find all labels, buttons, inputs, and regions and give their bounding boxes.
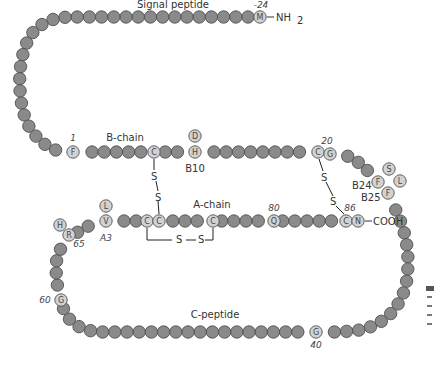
disulfide-s: S xyxy=(198,234,204,245)
amino-acid-bead xyxy=(244,146,256,158)
amino-acid-bead xyxy=(193,11,205,23)
amino-acid-bead xyxy=(402,251,414,263)
amino-acid-bead xyxy=(361,164,373,176)
amino-acid-bead xyxy=(398,227,410,239)
amino-acid-bead xyxy=(71,11,83,23)
svg-text:C: C xyxy=(156,217,162,226)
n-terminus-label: NH xyxy=(276,12,291,23)
amino-acid-bead xyxy=(353,324,365,336)
svg-text:G: G xyxy=(58,296,64,305)
c-peptide-label: C-peptide xyxy=(191,309,240,320)
amino-acid-bead xyxy=(82,220,94,232)
labeled-residue-g: G xyxy=(310,326,322,338)
amino-acid-bead xyxy=(96,326,108,338)
amino-acid-bead xyxy=(144,11,156,23)
svg-text:C: C xyxy=(144,217,150,226)
position-1: 1 xyxy=(70,133,76,143)
amino-acid-bead xyxy=(269,146,281,158)
svg-text:R: R xyxy=(66,231,72,240)
amino-acid-bead xyxy=(220,146,232,158)
amino-acid-beads xyxy=(13,11,414,338)
amino-acid-bead xyxy=(252,215,264,227)
labeled-residues: MFCHDCGFSLFCNQCCCVLHRGG xyxy=(54,11,406,338)
labeled-residue-s: S xyxy=(383,163,395,175)
site-a3: A3 xyxy=(99,233,112,243)
amino-acid-bead xyxy=(20,37,32,49)
amino-acid-bead xyxy=(217,11,229,23)
position-65: 65 xyxy=(73,239,85,249)
labeled-residue-c: C xyxy=(312,146,324,158)
amino-acid-bead xyxy=(108,11,120,23)
svg-text:Q: Q xyxy=(271,217,277,226)
amino-acid-bead xyxy=(121,326,133,338)
amino-acid-bead xyxy=(14,85,26,97)
labeled-residue-c: C xyxy=(207,215,219,227)
svg-text:S: S xyxy=(386,165,391,174)
labeled-residue-l: L xyxy=(394,175,406,187)
svg-text:C: C xyxy=(210,217,216,226)
labeled-residue-h: H xyxy=(54,219,66,231)
amino-acid-bead xyxy=(179,215,191,227)
amino-acid-bead xyxy=(194,326,206,338)
amino-acid-bead xyxy=(132,11,144,23)
labeled-residue-f: F xyxy=(67,146,79,158)
amino-acid-bead xyxy=(182,326,194,338)
amino-acid-bead xyxy=(255,326,267,338)
amino-acid-bead xyxy=(390,204,402,216)
svg-text:F: F xyxy=(376,178,381,187)
svg-text:L: L xyxy=(398,177,403,186)
labeled-residue-c: C xyxy=(153,215,165,227)
amino-acid-bead xyxy=(208,146,220,158)
amino-acid-bead xyxy=(325,215,337,227)
svg-text:V: V xyxy=(103,217,109,226)
amino-acid-bead xyxy=(292,326,304,338)
svg-text:M: M xyxy=(257,13,264,22)
n-terminus-subscript: 2 xyxy=(297,15,303,26)
amino-acid-bead xyxy=(167,215,179,227)
labeled-residue-v: V xyxy=(100,215,112,227)
position-20: 20 xyxy=(321,136,333,146)
amino-acid-bead xyxy=(402,263,414,275)
labeled-residue-n: N xyxy=(352,215,364,227)
labeled-residue-f: F xyxy=(372,176,384,188)
amino-acid-bead xyxy=(122,146,134,158)
svg-text:F: F xyxy=(386,189,391,198)
amino-acid-bead xyxy=(157,326,169,338)
amino-acid-bead xyxy=(191,215,203,227)
svg-text:D: D xyxy=(192,132,198,141)
labeled-residue-q: Q xyxy=(268,215,280,227)
amino-acid-bead xyxy=(267,326,279,338)
amino-acid-bead xyxy=(13,73,25,85)
amino-acid-bead xyxy=(51,279,63,291)
disulfide-s: S xyxy=(155,192,161,203)
preproinsulin-diagram: S S S S S S MFCHDCGFSLFCNQCCCVLHRGG NH 2… xyxy=(0,0,434,369)
amino-acid-bead xyxy=(230,11,242,23)
labeled-residue-d: D xyxy=(189,130,201,142)
amino-acid-bead xyxy=(364,321,376,333)
amino-acid-bead xyxy=(242,11,254,23)
amino-acid-bead xyxy=(54,243,66,255)
amino-acid-bead xyxy=(17,48,29,60)
amino-acid-bead xyxy=(14,60,26,72)
svg-text:C: C xyxy=(315,148,321,157)
amino-acid-bead xyxy=(86,146,98,158)
amino-acid-bead xyxy=(156,11,168,23)
amino-acid-bead xyxy=(257,146,269,158)
labeled-residue-c: C xyxy=(340,215,352,227)
amino-acid-bead xyxy=(289,215,301,227)
position-86: 86 xyxy=(344,203,356,213)
labeled-residue-f: F xyxy=(382,187,394,199)
labeled-residue-c: C xyxy=(141,215,153,227)
disulfide-s: S xyxy=(321,172,327,183)
amino-acid-bead xyxy=(109,326,121,338)
labeled-residue-g: G xyxy=(324,148,336,160)
amino-acid-bead xyxy=(231,326,243,338)
amino-acid-bead xyxy=(50,255,62,267)
signal-peptide-label: Signal peptide xyxy=(137,0,209,10)
svg-text:H: H xyxy=(57,221,63,230)
svg-text:C: C xyxy=(343,217,349,226)
position-80: 80 xyxy=(268,203,280,213)
amino-acid-bead xyxy=(328,326,340,338)
amino-acid-bead xyxy=(243,326,255,338)
amino-acid-bead xyxy=(135,146,147,158)
